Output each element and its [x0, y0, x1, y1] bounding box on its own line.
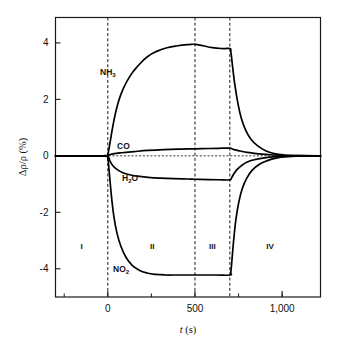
chart-figure: 420-2-4 05001,000 IIIIIIIV NH3 CO H2O NO…: [0, 0, 344, 346]
h2o-label-tail: O: [131, 173, 138, 183]
y-tick-label: -2: [40, 207, 49, 218]
annotation-no2: NO2: [113, 264, 130, 275]
y-axis-tick-labels: 420-2-4: [40, 37, 49, 274]
x-tick-label: 1,000: [270, 303, 295, 314]
x-tick-label: 500: [187, 303, 204, 314]
x-tick-label: 0: [105, 303, 111, 314]
delta-rho-vs-time-plot: 420-2-4 05001,000 IIIIIIIV NH3 CO H2O NO…: [0, 0, 344, 346]
y-tick-label: 0: [43, 150, 49, 161]
region-label-i: I: [81, 242, 83, 251]
y-tick-label: 4: [43, 37, 49, 48]
x-axis-tick-labels: 05001,000: [105, 303, 295, 314]
x-axis-tickmarks: [64, 291, 282, 297]
region-label-iv: IV: [266, 242, 274, 251]
region-label-ii: II: [150, 242, 154, 251]
data-curves: [56, 44, 321, 275]
no2-label-subscript: 2: [126, 269, 130, 275]
region-label-iii: III: [209, 242, 216, 251]
curve-h2o: [56, 156, 321, 180]
region-labels: IIIIIIIV: [81, 242, 275, 251]
y-axis-title-text: Δρ/ρ (%): [17, 137, 29, 176]
annotation-co: CO: [117, 141, 130, 151]
y-tick-label: 2: [43, 94, 49, 105]
no2-label-text: NO: [113, 264, 126, 274]
x-axis-title: t (s): [180, 324, 197, 336]
y-axis-title: Δρ/ρ (%): [17, 137, 29, 176]
svg-text:NO2: NO2: [113, 264, 130, 275]
curve-nh3: [56, 44, 321, 156]
region-divider-lines: [108, 18, 230, 298]
annotation-nh3: NH3: [100, 67, 116, 78]
y-tick-label: -4: [40, 263, 49, 274]
x-axis-title-unit: (s): [183, 324, 197, 336]
curve-co: [56, 148, 321, 156]
co-label-text: CO: [117, 141, 130, 151]
svg-text:NH3: NH3: [100, 67, 116, 78]
nh3-label-text: NH: [100, 67, 112, 77]
curve-no2: [56, 156, 321, 276]
svg-text:t (s): t (s): [180, 324, 197, 336]
nh3-label-subscript: 3: [112, 72, 116, 78]
